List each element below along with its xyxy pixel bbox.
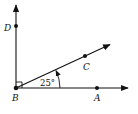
angle-label: 25° bbox=[40, 78, 55, 88]
point-c bbox=[83, 54, 87, 58]
angle-arc bbox=[56, 71, 60, 89]
angle-diagram: 25° D C A B bbox=[0, 0, 138, 114]
label-b: B bbox=[11, 93, 19, 103]
ray-bc bbox=[16, 45, 110, 89]
label-a: A bbox=[93, 93, 101, 103]
label-d: D bbox=[3, 23, 11, 33]
label-c: C bbox=[83, 62, 90, 72]
point-a bbox=[95, 86, 99, 90]
point-d bbox=[14, 24, 18, 28]
point-b bbox=[14, 86, 19, 91]
